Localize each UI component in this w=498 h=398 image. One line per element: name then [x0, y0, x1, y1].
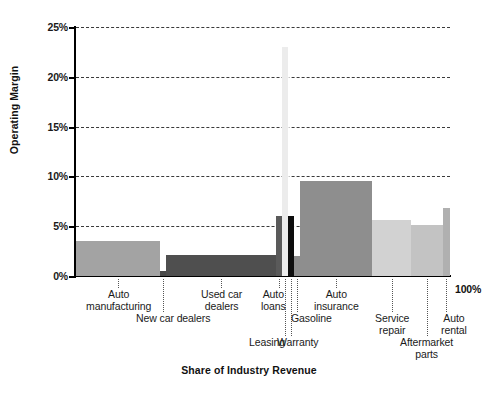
category-label: New car dealers: [136, 312, 210, 324]
y-tick-mark: [69, 127, 76, 129]
bar: [300, 181, 372, 276]
chart-container: Operating Margin 0%5%10%15%20%25% Auto m…: [0, 0, 498, 398]
x-axis-title: Share of Industry Revenue: [0, 364, 498, 376]
y-axis-title: Operating Margin: [8, 66, 20, 155]
y-tick-mark: [69, 27, 76, 29]
y-tick-label: 15%: [38, 122, 68, 133]
category-leader-line: [279, 279, 280, 288]
y-tick-label: 5%: [38, 221, 68, 232]
bar: [166, 255, 276, 276]
bar: [372, 220, 411, 276]
y-tick-label: 0%: [38, 271, 68, 282]
y-tick-label: 20%: [38, 72, 68, 83]
y-tick-mark: [69, 176, 76, 178]
bar: [443, 208, 450, 276]
category-label: Service repair: [375, 312, 409, 336]
category-leader-line: [118, 279, 119, 288]
y-tick-label: 10%: [38, 171, 68, 182]
y-tick-mark: [69, 77, 76, 79]
bar: [76, 241, 160, 276]
y-tick-mark: [69, 226, 76, 228]
plot-area: [76, 27, 450, 276]
category-leader-line: [291, 279, 292, 336]
category-leader-line: [336, 279, 337, 288]
category-leader-line: [427, 279, 428, 336]
bar: [411, 225, 442, 276]
category-label: Gasoline: [291, 312, 332, 324]
category-leader-line: [297, 279, 298, 312]
category-leader-line: [163, 279, 164, 312]
category-leader-line: [221, 279, 222, 288]
category-label: Auto manufacturing: [86, 288, 151, 312]
category-leader-line: [446, 279, 447, 312]
category-label: Auto rental: [441, 312, 467, 336]
category-label: Used car dealers: [201, 288, 242, 312]
category-label: Auto insurance: [314, 288, 359, 312]
x-axis-end-label: 100%: [455, 283, 481, 295]
category-label: Aftermarket parts: [400, 336, 453, 360]
category-label: Warranty: [277, 336, 318, 348]
y-tick-label: 25%: [38, 22, 68, 33]
category-leader-line: [392, 279, 393, 312]
y-tick-mark: [69, 276, 76, 278]
category-label: Auto loans: [261, 288, 286, 312]
